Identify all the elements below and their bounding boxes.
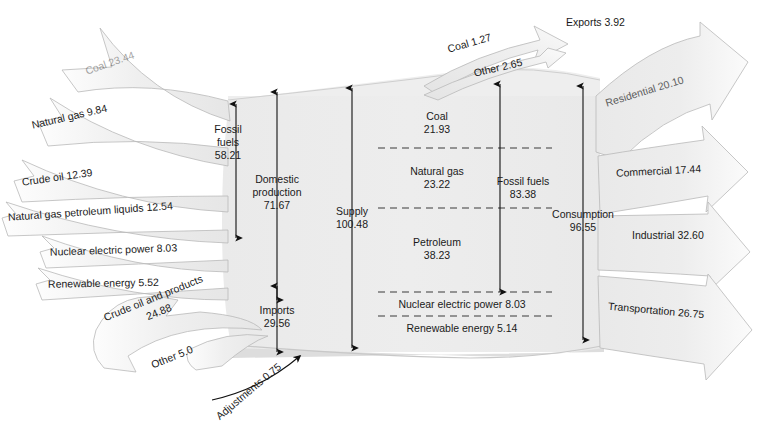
production-input-bands — [2, 28, 230, 300]
import-label-other: Other 5.0 — [149, 343, 194, 371]
axis-label-imports: Imports 29.56 — [259, 304, 294, 329]
supply-line2: 100.48 — [336, 218, 368, 230]
fossil-fuels-left-line1: Fossil — [214, 123, 241, 135]
fossil-fuels-left-line3: 58.21 — [215, 149, 241, 161]
supply-natural-gas-name: Natural gas — [410, 165, 464, 177]
exports-total-label: Exports 3.92 — [566, 16, 625, 28]
input-label-renewable-energy: Renewable energy 5.52 — [48, 276, 159, 290]
domestic-production-line1: Domestic — [255, 173, 299, 185]
imports-line2: 29.56 — [264, 317, 290, 329]
supply-item-nuclear-electric-power: Nuclear electric power 8.03 — [398, 298, 525, 310]
input-label-nuclear-electric-power: Nuclear electric power 8.03 — [50, 241, 178, 257]
sector-label-industrial: Industrial 32.60 — [632, 229, 704, 241]
supply-petroleum-value: 38.23 — [424, 249, 450, 261]
supply-coal-value: 21.93 — [424, 123, 450, 135]
fossil-fuels-right-line1: Fossil fuels — [497, 175, 550, 187]
axis-label-fossil-fuels-left: Fossil fuels 58.21 — [214, 123, 241, 161]
sector-band-residential — [596, 22, 748, 160]
export-label-coal: Coal 1.27 — [446, 31, 493, 55]
flow-diagram-canvas: Coal 23.44 Natural gas 9.84 Crude oil 12… — [0, 0, 761, 432]
energy-flow-diagram: Coal 23.44 Natural gas 9.84 Crude oil 12… — [0, 0, 761, 432]
imports-line1: Imports — [259, 304, 294, 316]
consumption-line2: 96.55 — [570, 221, 596, 233]
sector-band-industrial — [598, 202, 750, 290]
supply-petroleum-name: Petroleum — [413, 236, 461, 248]
domestic-production-line3: 71.67 — [264, 199, 290, 211]
supply-coal-name: Coal — [426, 110, 448, 122]
axis-label-supply: Supply 100.48 — [336, 205, 369, 230]
supply-natural-gas-value: 23.22 — [424, 178, 450, 190]
supply-item-coal: Coal 21.93 — [424, 110, 450, 135]
input-label-ngpl: Natural gas petroleum liquids 12.54 — [7, 199, 173, 223]
supply-line1: Supply — [336, 205, 369, 217]
fossil-fuels-right-line2: 83.38 — [510, 188, 536, 200]
adjustments-label: Adjustments 0.75 — [213, 360, 283, 421]
consumption-line1: Consumption — [552, 208, 614, 220]
fossil-fuels-left-line2: fuels — [217, 136, 239, 148]
supply-item-renewable-energy: Renewable energy 5.14 — [407, 322, 518, 334]
domestic-production-line2: production — [252, 186, 301, 198]
sector-band-transportation — [598, 274, 752, 380]
